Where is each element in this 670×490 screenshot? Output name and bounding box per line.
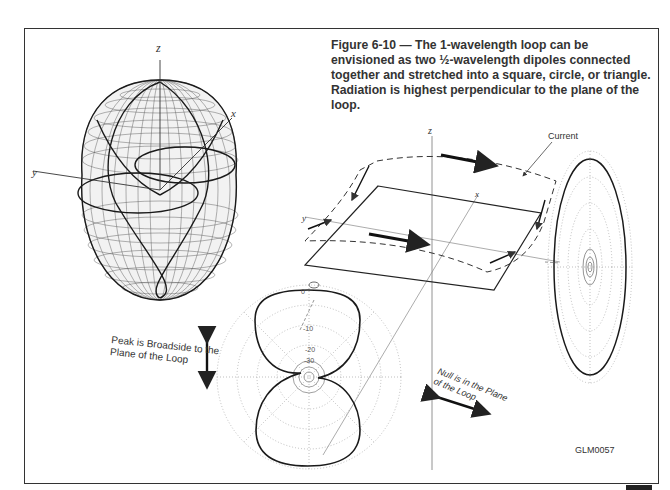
z-axis-label: z	[155, 41, 161, 55]
azimuth-pattern	[548, 151, 632, 383]
loop-diagram: z x y	[300, 125, 560, 470]
ring-label-20: -20	[305, 346, 315, 353]
loop-y-label: y	[301, 213, 306, 223]
page-corner-mark	[626, 485, 652, 490]
elevation-pattern: 0 -10 -20 -30	[217, 285, 401, 469]
x-axis-label: x	[230, 107, 236, 119]
y-axis-label: y	[31, 166, 37, 178]
figure-artwork: z x y z x y	[0, 0, 670, 490]
ring-label-10: -10	[303, 325, 313, 332]
current-callout-line	[523, 142, 552, 176]
loop-z-label: z	[427, 125, 432, 136]
current-label: Current	[548, 131, 578, 141]
loop-x-label: x	[474, 189, 479, 199]
current-arrow-left-in	[308, 220, 331, 229]
current-arrow-center	[369, 234, 425, 244]
ring-label-30: -30	[304, 357, 314, 364]
3d-radiation-pattern: z x y	[31, 41, 238, 300]
feed-point	[309, 282, 319, 288]
current-arrow-right-down	[537, 200, 545, 229]
figure-code: GLM0057	[575, 445, 615, 455]
current-arrow-top	[441, 155, 493, 165]
ring-label-0: 0	[301, 288, 305, 295]
current-arrow-left-down	[352, 166, 369, 200]
